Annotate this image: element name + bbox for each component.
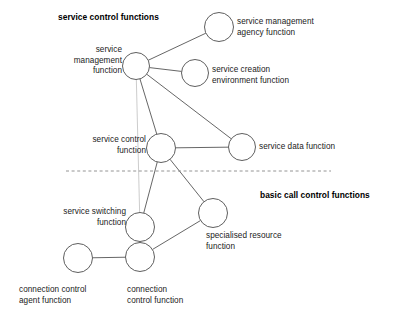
edge-scf-ssf <box>144 162 158 213</box>
connection-control-agent-function-label: connection control agent function <box>19 285 86 306</box>
node-service-management-function[interactable] <box>123 53 150 80</box>
edge-smf-scef <box>149 68 181 72</box>
service-control-function-label: service control function <box>92 135 146 156</box>
service-management-function-label: service management function <box>74 45 122 77</box>
edge-srf-ccf <box>152 220 200 249</box>
connection-control-function-label: connection control function <box>127 285 183 306</box>
edge-scf-srf <box>170 159 204 201</box>
node-connection-control-function[interactable] <box>126 243 155 272</box>
node-specialised-resource-function[interactable] <box>199 199 228 228</box>
service-data-function-label: service data function <box>259 142 335 153</box>
edge-scf-sdf <box>176 147 229 148</box>
service-switching-function-label: service switching function <box>63 207 126 228</box>
node-connection-control-agent-function[interactable] <box>64 244 93 273</box>
node-service-control-function[interactable] <box>147 134 176 163</box>
edge-smf-scf <box>140 79 157 134</box>
node-service-creation-environment-function[interactable] <box>182 60 209 87</box>
service-management-agency-function-label: service management agency function <box>237 17 314 38</box>
node-service-switching-function[interactable] <box>126 213 155 242</box>
service-control-functions-label: service control functions <box>58 12 159 23</box>
specialised-resource-function-label: specialised resource function <box>206 231 282 252</box>
basic-call-control-functions-label: basic call control functions <box>260 190 370 201</box>
edge-ccaf-ccf <box>93 257 126 258</box>
edge-smf-smaf <box>148 33 206 60</box>
node-service-data-function[interactable] <box>229 134 256 161</box>
service-creation-environment-function-label: service creation environment function <box>212 65 289 86</box>
node-service-management-agency-function[interactable] <box>205 13 234 42</box>
